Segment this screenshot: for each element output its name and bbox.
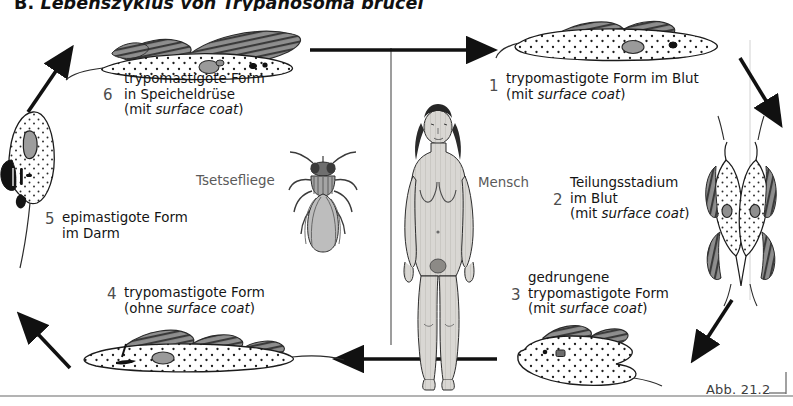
arrow-right-down — [740, 58, 768, 104]
stage-2-line-2: im Blut — [570, 191, 690, 207]
stage-number-3: 3 — [511, 288, 521, 303]
vector-label-tsetse-fly: Tsetsefliege — [196, 173, 275, 188]
organism-stage-4 — [84, 330, 344, 372]
organism-stage-5 — [1, 112, 54, 268]
stage-3-coat-term: surface coat — [560, 301, 643, 316]
stage-label-5: epimastigote Form im Darm — [62, 210, 188, 241]
stage-6-line-1: trypomastigote Form — [124, 71, 265, 87]
stage-label-3: gedrungene trypomastigote Form (mit surf… — [528, 270, 669, 317]
stage-label-1: trypomastigote Form im Blut (mit surface… — [506, 71, 699, 102]
organism-stage-3 — [518, 326, 662, 386]
stage-4-coat-post: ) — [250, 301, 255, 316]
organism-stage-2 — [706, 116, 777, 306]
stage-5-line-1: epimastigote Form — [62, 210, 188, 226]
stage-3-coat-post: ) — [642, 301, 647, 316]
stage-3-line-3: (mit surface coat) — [528, 301, 669, 317]
stage-label-6: trypomastigote Form in Speicheldrüse (mi… — [124, 71, 265, 118]
stage-3-coat-pre: (mit — [528, 301, 560, 316]
stage-1-line-2: (mit surface coat) — [506, 87, 699, 103]
organism-stage-1 — [496, 21, 717, 60]
stage-3-line-1: gedrungene — [528, 270, 669, 286]
stage-label-2: Teilungsstadium im Blut (mit surface coa… — [570, 175, 690, 222]
stage-number-5: 5 — [45, 212, 55, 227]
human-figure-illustration — [404, 104, 474, 390]
stage-6-line-2: in Speicheldrüse — [124, 87, 265, 103]
stage-2-line-3: (mit surface coat) — [570, 206, 690, 222]
stage-6-coat-post: ) — [238, 102, 243, 117]
stage-6-coat-pre: (mit — [124, 102, 156, 117]
host-label-human: Mensch — [478, 175, 529, 190]
stage-2-line-1: Teilungsstadium — [570, 175, 690, 191]
figure-canvas: B. Lebenszyklus von Trypanosoma brucei — [0, 0, 793, 406]
stage-3-line-2: trypomastigote Form — [528, 286, 669, 302]
stage-1-coat-term: surface coat — [538, 87, 621, 102]
arrow-bottom-up — [36, 332, 70, 368]
stage-2-coat-pre: (mit — [570, 206, 602, 221]
stage-1-coat-post: ) — [620, 87, 625, 102]
stage-number-4: 4 — [107, 287, 117, 302]
stage-number-1: 1 — [489, 79, 499, 94]
stage-number-2: 2 — [553, 193, 563, 208]
stage-4-line-1: trypomastigote Form — [124, 285, 265, 301]
stage-4-coat-term: surface coat — [167, 301, 250, 316]
figure-caption: Abb. 21.2 — [706, 382, 770, 397]
stage-6-coat-term: surface coat — [156, 102, 239, 117]
stage-4-line-2: (ohne surface coat) — [124, 301, 265, 317]
arrow-left-up — [28, 68, 58, 112]
arrow-right-bottom — [706, 300, 732, 340]
stage-6-line-3: (mit surface coat) — [124, 102, 265, 118]
stage-2-coat-term: surface coat — [602, 206, 685, 221]
stage-4-coat-pre: (ohne — [124, 301, 167, 316]
stage-2-coat-post: ) — [684, 206, 689, 221]
stage-5-line-2: im Darm — [62, 226, 188, 242]
stage-label-4: trypomastigote Form (ohne surface coat) — [124, 285, 265, 316]
tsetse-fly-illustration — [289, 152, 357, 252]
stage-1-coat-pre: (mit — [506, 87, 538, 102]
stage-number-6: 6 — [103, 88, 113, 103]
stage-1-line-1: trypomastigote Form im Blut — [506, 71, 699, 87]
